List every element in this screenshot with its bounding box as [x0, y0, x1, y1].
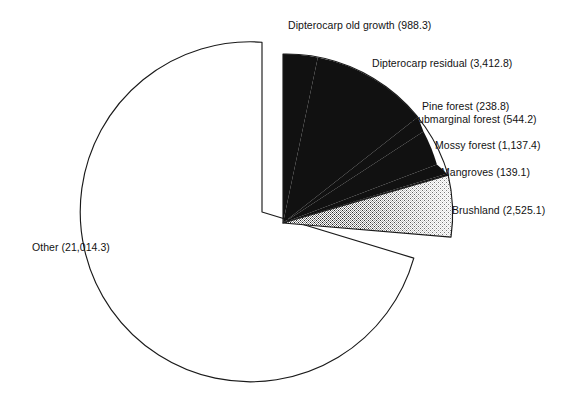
pie-label-mangroves: Mangroves (139.1) [441, 166, 530, 178]
pie-label-submarginal-forest: Submarginal forest (544.2) [411, 113, 537, 125]
pie-label-dipterocarp-residual: Dipterocarp residual (3,412.8) [372, 57, 512, 69]
pie-label-other: Other (21,014.3) [32, 241, 110, 253]
pie-label-mossy-forest: Mossy forest (1,137.4) [435, 139, 541, 151]
pie-chart-figure: Dipterocarp old growth (988.3) Dipteroca… [0, 0, 562, 400]
pie-label-brushland: Brushland (2,525.1) [452, 204, 545, 216]
pie-label-pine-forest: Pine forest (238.8) [422, 100, 509, 112]
pie-label-dipterocarp-old-growth: Dipterocarp old growth (988.3) [288, 19, 431, 31]
